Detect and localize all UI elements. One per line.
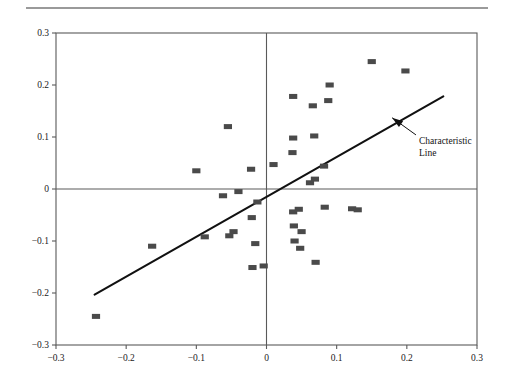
data-point-marker <box>253 200 261 205</box>
annotation-label-line2: Line <box>419 148 436 158</box>
data-point-marker <box>269 162 277 167</box>
characteristic-line <box>95 96 444 294</box>
y-axis-tick-label: 0 <box>44 184 49 194</box>
y-axis-tick-label: −0.2 <box>32 288 49 298</box>
data-point-marker <box>247 167 255 172</box>
y-axis-tick-label: −0.1 <box>32 236 49 246</box>
data-point-marker <box>219 193 227 198</box>
data-point-marker <box>354 207 362 212</box>
data-point-marker <box>312 260 320 265</box>
data-point-marker <box>326 83 334 88</box>
data-point-marker <box>295 207 303 212</box>
data-point-marker <box>296 246 304 251</box>
scatter-plot: −0.3−0.2−0.100.10.20.3−0.3−0.2−0.100.10.… <box>0 0 505 382</box>
y-axis-tick-label: 0.3 <box>37 28 49 38</box>
data-point-marker <box>92 314 100 319</box>
data-point-marker <box>248 265 256 270</box>
data-point-marker <box>368 59 376 64</box>
x-axis-tick-label: −0.2 <box>118 353 135 363</box>
data-point-marker <box>311 177 319 182</box>
y-axis-tick-label: 0.1 <box>37 132 49 142</box>
data-point-marker <box>401 68 409 73</box>
data-point-marker <box>297 229 305 234</box>
data-point-marker <box>229 229 237 234</box>
data-point-marker <box>309 103 317 108</box>
data-point-marker <box>234 189 242 194</box>
data-point-marker <box>288 150 296 155</box>
x-axis-tick-label: −0.3 <box>47 353 64 363</box>
data-point-marker <box>290 239 298 244</box>
y-axis-tick-label: −0.3 <box>32 340 49 350</box>
figure-container: −0.3−0.2−0.100.10.20.3−0.3−0.2−0.100.10.… <box>0 0 505 382</box>
x-axis-tick-label: 0.3 <box>471 353 483 363</box>
annotation-label-line1: Characteristic <box>419 136 472 146</box>
data-point-marker <box>201 234 209 239</box>
data-point-marker <box>290 223 298 228</box>
x-axis-tick-label: 0.1 <box>331 353 343 363</box>
y-axis-tick-label: 0.2 <box>37 80 49 90</box>
data-point-marker <box>148 244 156 249</box>
data-point-marker <box>248 215 256 220</box>
data-point-marker <box>251 241 259 246</box>
data-point-marker <box>324 98 332 103</box>
data-point-marker <box>192 168 200 173</box>
data-point-marker <box>310 133 318 138</box>
data-point-marker <box>224 124 232 129</box>
x-axis-tick-label: −0.1 <box>188 353 205 363</box>
x-axis-tick-label: 0 <box>264 353 269 363</box>
data-point-marker <box>289 94 297 99</box>
data-point-marker <box>289 136 297 141</box>
data-point-marker <box>260 263 268 268</box>
data-point-marker <box>321 205 329 210</box>
data-point-marker <box>320 164 328 169</box>
x-axis-tick-label: 0.2 <box>401 353 413 363</box>
